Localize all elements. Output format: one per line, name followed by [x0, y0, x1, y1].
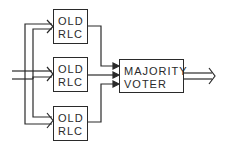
old-rlc-block-1: OLD RLC — [53, 9, 88, 44]
block-label-line2: RLC — [58, 28, 87, 41]
block-label-line2: RLC — [58, 76, 87, 89]
tmr-block-diagram: OLD RLC OLD RLC OLD RLC MAJORITY VOTER — [0, 0, 225, 150]
rlc-to-voter-lines — [88, 26, 119, 122]
block-label-line1: OLD — [58, 112, 87, 125]
block-label-line1: OLD — [58, 15, 87, 28]
majority-voter-block: MAJORITY VOTER — [119, 59, 184, 93]
block-label-line2: RLC — [58, 125, 87, 138]
connector-lines — [0, 0, 225, 150]
old-rlc-block-3: OLD RLC — [53, 106, 88, 141]
block-label-line1: MAJORITY — [124, 65, 183, 78]
block-label-line2: VOTER — [124, 78, 183, 91]
input-bus — [12, 24, 52, 124]
old-rlc-block-2: OLD RLC — [53, 57, 88, 92]
block-label-line1: OLD — [58, 63, 87, 76]
output-double-arrow — [184, 68, 215, 84]
